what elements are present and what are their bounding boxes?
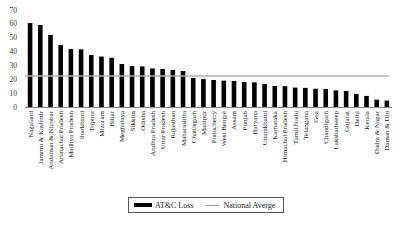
bar [303, 88, 308, 107]
bar [48, 35, 53, 107]
legend: AT&C Loss National Averge [128, 197, 284, 213]
bar [323, 89, 328, 107]
bar [272, 86, 277, 107]
legend-item-national-average: National Averge [193, 201, 275, 210]
x-category-label: Haryana [251, 110, 259, 135]
x-category-label: Assam [230, 110, 238, 130]
x-category-label: Madhya Pradesh [67, 111, 75, 158]
y-tick-label: 60 [10, 19, 18, 28]
bar [89, 55, 94, 107]
bar [69, 49, 74, 107]
x-category-label: Lakshadweep [332, 111, 340, 150]
bar [364, 96, 369, 107]
bar [28, 23, 33, 107]
bar [38, 25, 43, 107]
x-category-label: Odisha [139, 110, 147, 131]
bar [160, 69, 165, 107]
bar [232, 81, 237, 107]
bar [374, 100, 379, 107]
y-tick-label: 20 [10, 75, 18, 84]
bar [140, 66, 145, 107]
bar [211, 80, 216, 107]
legend-item-atc-loss: AT&C Loss [129, 201, 193, 210]
bar [201, 79, 206, 107]
y-tick-label: 70 [10, 6, 18, 15]
x-category-label: Punjab [241, 111, 249, 131]
x-category-label: Jharkhand [78, 111, 86, 140]
bar [334, 90, 339, 107]
x-category-label: Maharashtra [180, 110, 188, 146]
y-axis: 010203040506070 [10, 6, 18, 112]
x-category-label: West Bengal [220, 111, 228, 146]
x-category-label: Bihar [108, 110, 116, 126]
x-category-label: Telangana [302, 110, 310, 140]
legend-swatch-bar-icon [134, 203, 152, 207]
legend-label-national-average: National Averge [223, 201, 275, 210]
bar [221, 81, 226, 107]
y-tick-label: 50 [10, 33, 18, 42]
bar [252, 82, 257, 107]
bar [344, 91, 349, 107]
x-category-label: Nagaland [27, 111, 35, 138]
x-category-label: Chandigarh [322, 111, 330, 144]
x-category-label: Chattisgarh [190, 111, 198, 144]
x-category-label: Tamil Nadu [292, 111, 300, 145]
x-category-label: Delhi [353, 111, 361, 127]
x-category-label: Uttar Pradesh [159, 111, 167, 150]
bar [313, 89, 318, 107]
x-category-label: Manipur [200, 110, 208, 135]
x-category-label: Himachal Pradesh [281, 111, 289, 163]
x-category-label: Daman & Diu [383, 111, 391, 151]
y-tick-label: 10 [10, 89, 18, 98]
x-category-label: Arunachal Pradesh [57, 111, 65, 165]
x-category-label: Uttarakhand [261, 111, 269, 146]
bar [191, 78, 196, 107]
x-category-label: Puducherry [210, 111, 218, 144]
bar [79, 49, 84, 107]
x-category-label: Meghalaya [118, 110, 126, 142]
x-category-label: Kerala [363, 110, 371, 130]
y-tick-label: 30 [10, 61, 18, 70]
legend-swatch-line-icon [205, 205, 219, 206]
x-category-label: Rajasthan [169, 111, 177, 139]
x-category-label: Andhra Pradesh [149, 111, 157, 156]
x-category-label: Goa [312, 110, 320, 123]
bar [354, 94, 359, 107]
bar [99, 57, 104, 107]
y-tick-label: 40 [10, 47, 18, 56]
x-category-label: Dadra & Nagar [373, 110, 381, 154]
x-axis: NagalandJammu & KashmirAndaman & Nicobar… [25, 108, 392, 170]
bar [150, 68, 155, 107]
x-category-label: Gujarat [343, 111, 351, 132]
bar [283, 86, 288, 107]
bar [293, 88, 298, 107]
bar [242, 82, 247, 107]
bar [130, 66, 135, 107]
x-category-label: Jammu & Kashmir [37, 110, 45, 164]
x-category-label: Andaman & Nicobar [47, 110, 55, 169]
bar-chart: 010203040506070 NagalandJammu & KashmirA… [0, 0, 399, 195]
bar [385, 101, 390, 107]
bar [120, 64, 125, 107]
legend-label-atc-loss: AT&C Loss [155, 201, 193, 210]
x-category-label: Sikkim [129, 110, 137, 131]
y-tick-label: 0 [13, 103, 17, 112]
x-category-label: Karnataka [271, 110, 279, 140]
x-category-label: Tripura [88, 110, 96, 132]
bar [262, 84, 267, 107]
x-category-label: Mizoram [98, 110, 106, 136]
bars-at-c-loss [28, 23, 389, 107]
bar [109, 58, 114, 107]
